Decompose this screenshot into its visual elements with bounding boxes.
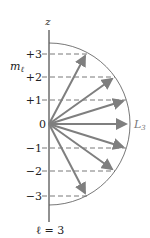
tick-label-plus3: +3 [26, 48, 42, 61]
ml-label: mℓ [10, 60, 24, 74]
tick-label-zero: 0 [39, 118, 46, 131]
angular-momentum-diagram: z +3 +2 +1 0 −1 −2 −3 mℓ L3 ℓ = 3 [0, 0, 150, 238]
z-axis-label: z [44, 16, 51, 27]
tick-label-minus1: −1 [26, 142, 42, 155]
tick-label-minus2: −2 [26, 165, 42, 178]
vector-label: L3 [133, 118, 146, 132]
tick-label-plus2: +2 [26, 71, 42, 84]
l-quantum-number-label: ℓ = 3 [36, 224, 64, 237]
tick-label-plus1: +1 [26, 94, 42, 107]
tick-label-minus3: −3 [26, 190, 42, 203]
